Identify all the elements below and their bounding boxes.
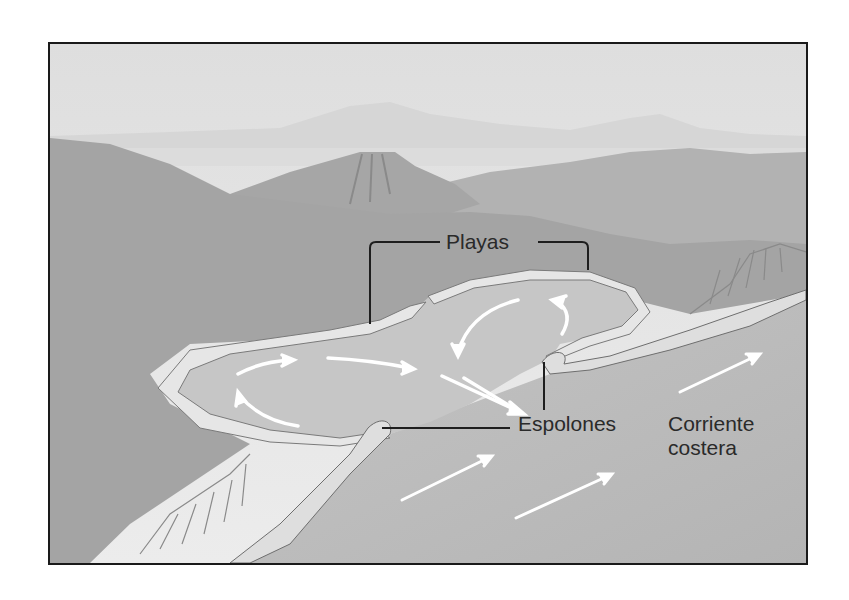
label-playas: Playas — [446, 230, 509, 254]
label-corriente-line1: Corriente — [668, 412, 754, 436]
label-corriente-line2: costera — [668, 436, 754, 460]
label-corriente-costera: Corriente costera — [668, 412, 754, 460]
coastal-illustration — [50, 44, 806, 563]
illustration-frame — [48, 42, 808, 565]
label-espolones: Espolones — [518, 412, 616, 436]
